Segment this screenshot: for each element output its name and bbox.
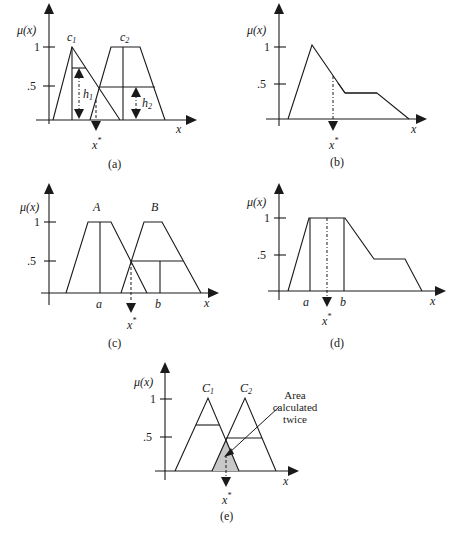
output-arrow-icon (221, 477, 231, 487)
x-axis-arrow-icon (208, 288, 219, 298)
x-tick-b: b (155, 297, 161, 311)
y-tick-1: 1 (34, 40, 40, 54)
x-axis-arrow-icon (186, 115, 197, 125)
annotation-line-1: Area (284, 389, 305, 401)
y-axis-arrow-icon (274, 183, 284, 194)
x-axis-arrow-icon (435, 286, 446, 296)
c2-label: c2 (120, 30, 129, 45)
x-tick-b: b (340, 295, 346, 309)
x-star-label: x* (126, 316, 136, 332)
y-tick-half: .5 (257, 248, 266, 262)
aggregated-output (288, 218, 422, 291)
set-B-label: B (151, 200, 159, 214)
defuzzification-figure: 1 .5 μ(x) x c1 c2 h1 h2 x* (a) (0, 0, 461, 536)
y-axis-label: μ(x) (16, 23, 36, 37)
y-axis-label: μ(x) (19, 200, 39, 214)
y-tick-1: 1 (34, 215, 40, 229)
y-axis-label: μ(x) (133, 375, 153, 389)
output-arrow-icon (328, 121, 338, 131)
set-B (121, 222, 201, 293)
y-tick-1: 1 (150, 392, 156, 406)
y-axis-label: μ(x) (246, 195, 266, 209)
y-axis-arrow-icon (44, 183, 54, 194)
set-c2 (90, 47, 165, 120)
caption-e: (e) (220, 509, 233, 523)
x-axis-label: x (410, 122, 417, 136)
panel-d: 1 .5 μ(x) x a b x* (d) (246, 183, 446, 350)
caption-c: (c) (108, 336, 121, 350)
x-star-label: x* (328, 136, 338, 152)
x-axis-arrow-icon (288, 466, 299, 476)
y-axis-arrow-icon (44, 3, 54, 14)
h1-label: h1 (83, 87, 93, 102)
caption-b: (b) (330, 155, 344, 169)
x-axis-arrow-icon (416, 114, 427, 124)
y-axis-label: μ(x) (246, 23, 266, 37)
aggregated-output (288, 45, 409, 119)
x-tick-a: a (303, 295, 309, 309)
y-tick-1: 1 (264, 211, 270, 225)
h2-label: h2 (142, 96, 152, 111)
y-tick-1: 1 (264, 40, 270, 54)
C2-label: C2 (240, 381, 252, 396)
panel-a: 1 .5 μ(x) x c1 c2 h1 h2 x* (a) (16, 3, 197, 171)
annotation-line-3: twice (283, 413, 307, 425)
x-tick-a: a (96, 297, 102, 311)
x-star-label: x* (221, 491, 231, 507)
x-axis-label: x (175, 122, 182, 136)
panel-c: 1 .5 μ(x) x A B a b x* (c) (19, 183, 219, 350)
x-axis-label: x (203, 296, 210, 310)
y-tick-half: .5 (257, 77, 266, 91)
output-arrow-icon (322, 297, 332, 307)
y-axis-arrow-icon (160, 362, 170, 373)
output-arrow-icon (126, 303, 136, 313)
y-tick-half: .5 (27, 79, 36, 93)
y-axis-arrow-icon (274, 3, 284, 14)
y-tick-half: .5 (27, 254, 36, 268)
set-c1 (53, 47, 120, 120)
caption-d: (d) (330, 336, 344, 350)
panel-e: 1 .5 μ(x) x C1 C2 Area calculated twice … (133, 362, 318, 523)
panel-b: 1 .5 μ(x) x x* (b) (246, 3, 427, 169)
C1-label: C1 (202, 381, 214, 396)
annotation-line-2: calculated (273, 401, 318, 413)
y-tick-half: .5 (143, 430, 152, 444)
c1-label: c1 (67, 30, 76, 45)
x-axis-label: x (429, 294, 436, 308)
annotation-pointer (229, 407, 279, 453)
x-axis-label: x (282, 474, 289, 488)
caption-a: (a) (108, 157, 121, 171)
set-A (66, 222, 147, 293)
set-A-label: A (92, 200, 101, 214)
output-arrow-icon (91, 121, 101, 131)
x-star-label: x* (91, 136, 101, 152)
x-star-label: x* (321, 312, 331, 328)
